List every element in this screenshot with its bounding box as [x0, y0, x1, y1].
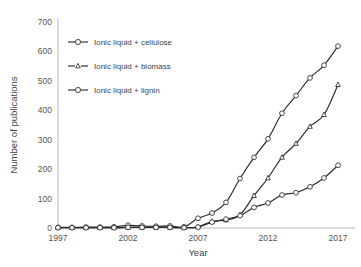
- data-point-marker: [224, 200, 229, 205]
- y-tick-label: 600: [38, 46, 52, 56]
- data-point-marker: [196, 225, 201, 230]
- legend-item-label: Ionic liquid + biomass: [94, 62, 171, 71]
- data-point-marker: [98, 225, 103, 230]
- publications-line-chart: 0100200300400500600700 19972002200720122…: [0, 0, 361, 267]
- y-tick-label: 700: [38, 17, 52, 27]
- data-point-marker: [70, 225, 75, 230]
- series-ionic-liquid-cellulose: [56, 44, 341, 230]
- data-point-marker: [266, 201, 271, 206]
- data-point-marker: [210, 220, 215, 225]
- x-tick-label: 2017: [329, 233, 348, 243]
- legend-marker-triangle-icon: [76, 63, 81, 67]
- data-point-marker: [238, 176, 243, 181]
- series-ionic-liquid-biomass: [56, 82, 341, 230]
- data-point-marker: [308, 184, 313, 189]
- y-axis-tick-labels: 0100200300400500600700: [38, 17, 52, 233]
- data-point-marker: [336, 163, 341, 168]
- y-axis-title: Number of publications: [8, 76, 19, 173]
- data-point-marker: [238, 213, 243, 218]
- x-tick-label: 2007: [189, 233, 208, 243]
- data-point-marker: [84, 225, 89, 230]
- legend-marker-circle-icon: [75, 87, 80, 92]
- y-tick-label: 300: [38, 135, 52, 145]
- data-point-marker: [322, 176, 327, 181]
- data-point-marker: [322, 63, 327, 68]
- y-tick-label: 500: [38, 76, 52, 86]
- x-tick-label: 2002: [119, 233, 138, 243]
- data-point-marker: [252, 205, 257, 210]
- legend-item: Ionic liquid + biomass: [68, 62, 171, 71]
- legend-item-label: Ionic liquid + lignin: [94, 86, 160, 95]
- data-point-marker: [56, 225, 61, 230]
- data-point-marker: [336, 82, 341, 86]
- x-tick-label: 1997: [49, 233, 68, 243]
- chart-canvas: 0100200300400500600700 19972002200720122…: [0, 0, 361, 267]
- legend-item: Ionic liquid + lignin: [68, 86, 160, 95]
- data-series-layer: [56, 44, 341, 230]
- data-point-marker: [280, 193, 285, 198]
- x-tick-label: 2012: [259, 233, 278, 243]
- data-point-marker: [224, 217, 229, 222]
- series-line: [58, 85, 338, 228]
- x-axis-title: Year: [188, 247, 207, 258]
- y-tick-label: 0: [47, 223, 52, 233]
- legend-item-label: Ionic liquid + cellulose: [94, 38, 173, 47]
- x-axis-tick-labels: 19972002200720122017: [49, 233, 348, 243]
- data-point-marker: [252, 155, 257, 160]
- data-point-marker: [266, 136, 271, 141]
- data-point-marker: [294, 190, 299, 195]
- y-tick-label: 100: [38, 194, 52, 204]
- legend-marker-circle-icon: [75, 39, 80, 44]
- data-point-marker: [294, 93, 299, 98]
- data-point-marker: [168, 225, 173, 230]
- axis-lines: [58, 18, 355, 228]
- data-point-marker: [140, 225, 145, 230]
- chart-legend: Ionic liquid + celluloseIonic liquid + b…: [68, 38, 173, 95]
- data-point-marker: [182, 225, 187, 230]
- data-point-marker: [280, 111, 285, 116]
- data-point-marker: [336, 44, 341, 49]
- legend-item: Ionic liquid + cellulose: [68, 38, 173, 47]
- series-line: [58, 46, 338, 227]
- data-point-marker: [196, 216, 201, 221]
- y-tick-label: 200: [38, 164, 52, 174]
- data-point-marker: [308, 76, 313, 81]
- data-point-marker: [154, 225, 159, 230]
- data-point-marker: [112, 225, 117, 230]
- data-point-marker: [126, 225, 131, 230]
- data-point-marker: [210, 211, 215, 216]
- y-tick-label: 400: [38, 105, 52, 115]
